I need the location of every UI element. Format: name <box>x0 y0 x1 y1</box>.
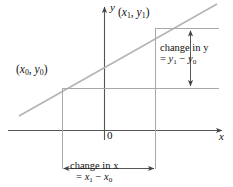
delta-y-annotation: change in y = y1 − y0 <box>160 42 208 64</box>
point-label-p1: (x1, y1) <box>118 6 149 18</box>
delta-y-line1: change in y <box>160 42 208 53</box>
x-axis-label: x <box>219 131 224 143</box>
origin-label: 0 <box>107 130 113 142</box>
delta-x-annotation: change in x = x1 − x0 <box>70 160 118 182</box>
diagram-canvas <box>0 0 233 187</box>
delta-y-line2: = y1 − y0 <box>160 53 208 64</box>
slope-diagram-figure: (x1, y1) (x0, y0) y x 0 change in y = y1… <box>0 0 233 187</box>
y-axis-label: y <box>110 2 115 14</box>
delta-x-line1: change in x <box>70 160 118 171</box>
point-label-p0: (x0, y0) <box>16 63 47 75</box>
delta-x-line2: = x1 − x0 <box>70 171 118 182</box>
